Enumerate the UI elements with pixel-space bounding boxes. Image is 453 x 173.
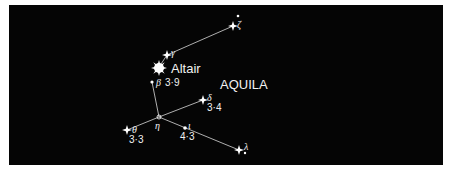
label-beta: β (156, 77, 161, 88)
label-gamma: γ (171, 47, 175, 58)
label-eta: η (155, 120, 160, 131)
label-iota: ι (188, 120, 191, 131)
mag-iota: 4·3 (180, 131, 194, 142)
mag-theta: 3·3 (129, 134, 143, 145)
label-altair: Altair (171, 61, 201, 76)
mag-delta: 3·4 (207, 102, 221, 113)
label-lambda: λ (244, 141, 248, 152)
constellation-name: AQUILA (220, 77, 268, 92)
label-zeta: ζ (237, 19, 241, 30)
mag-beta: 3·9 (165, 77, 179, 88)
